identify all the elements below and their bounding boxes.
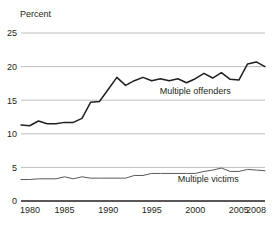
- y-tick-label-5: 5: [12, 163, 17, 173]
- y-tick-label-15: 15: [7, 96, 17, 106]
- series-annotation-labels: Multiple offendersMultiple victims: [160, 86, 240, 183]
- gridlines-group: [21, 33, 265, 167]
- x-tick-label-2008: 2008: [246, 205, 266, 215]
- y-axis-unit-label: Percent: [20, 9, 52, 19]
- y-tick-label-25: 25: [7, 28, 17, 38]
- x-axis-tick-labels: 1980198519901995200020052008: [20, 205, 266, 215]
- x-tick-label-2000: 2000: [185, 205, 205, 215]
- series-label-multiple-offenders: Multiple offenders: [160, 86, 231, 96]
- y-axis-tick-labels: 0510152025: [7, 28, 17, 206]
- x-tick-label-1980: 1980: [20, 205, 40, 215]
- y-tick-label-0: 0: [12, 196, 17, 206]
- x-tick-label-1995: 1995: [142, 205, 162, 215]
- x-tick-label-1985: 1985: [55, 205, 75, 215]
- chart-container: 0510152025 1980198519901995200020052008 …: [0, 0, 277, 227]
- data-series-group: [21, 62, 265, 180]
- y-tick-label-20: 20: [7, 62, 17, 72]
- line-chart: 0510152025 1980198519901995200020052008 …: [0, 0, 277, 227]
- series-label-multiple-victims: Multiple victims: [178, 174, 240, 184]
- y-tick-label-10: 10: [7, 129, 17, 139]
- x-tick-label-1990: 1990: [98, 205, 118, 215]
